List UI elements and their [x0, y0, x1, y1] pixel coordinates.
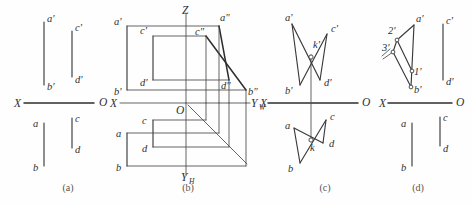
figure-canvas: X O a' c' b' d' a c b d (a)	[0, 0, 472, 205]
panel-d-label-a-prime: a'	[416, 13, 424, 24]
panel-b-label-O: O	[176, 104, 185, 116]
panel-a-caption: (a)	[62, 182, 73, 194]
panel-d-label-c: c	[443, 112, 448, 123]
panel-d-label-d-prime: d'	[446, 76, 454, 87]
panel-b: X Z O Y W Y H a' c' b' d' a" c" d" b" a …	[109, 4, 266, 194]
panel-c-label-a-prime: a'	[285, 12, 293, 23]
panel-a-label-c-prime: c'	[75, 22, 83, 33]
panel-d: X O a' c' 2' 3' 1' d' b' a c b d (d)	[378, 13, 465, 194]
panel-d-aux-2-to-1	[397, 40, 412, 71]
panel-a-label-a-prime: a'	[47, 13, 55, 24]
panel-b-label-a-prime: a'	[114, 16, 122, 27]
panel-a: X O a' c' b' d' a c b d (a)	[13, 13, 108, 194]
panel-b-label-b: b	[116, 162, 121, 173]
panel-d-aux-3-to-b	[393, 52, 411, 87]
panel-d-label-3-prime: 3'	[381, 42, 390, 53]
panel-c-label-X: X	[259, 97, 268, 109]
panel-c-label-k: k	[310, 142, 315, 153]
panel-a-label-a: a	[33, 118, 38, 129]
panel-d-label-b: b	[401, 162, 406, 173]
panel-c-label-d-prime: d'	[324, 77, 332, 88]
panel-a-label-O: O	[99, 96, 108, 108]
panel-d-label-O: O	[456, 96, 465, 108]
panel-b-label-Z: Z	[182, 4, 189, 16]
panel-b-label-Yw: Y	[251, 97, 259, 109]
panel-d-point-2-prime	[395, 38, 399, 42]
panel-b-label-c-prime: c'	[140, 25, 148, 36]
panel-d-label-a: a	[401, 118, 406, 129]
panel-b-45-degree-line	[188, 105, 247, 164]
panel-d-label-X: X	[378, 97, 387, 109]
panel-c-segment-ab-top	[294, 128, 300, 163]
panel-d-label-b-prime: b'	[414, 84, 422, 95]
panel-d-caption: (d)	[412, 182, 424, 194]
panel-b-caption: (b)	[182, 182, 194, 194]
panel-d-label-d: d	[443, 143, 449, 154]
panel-b-label-X: X	[109, 97, 118, 109]
panel-d-label-2-prime: 2'	[388, 25, 396, 36]
panel-b-label-b-double-prime: b"	[248, 86, 258, 97]
panel-b-label-d: d	[142, 143, 148, 154]
panel-c-label-a: a	[285, 120, 290, 131]
panel-a-label-X: X	[13, 97, 22, 109]
panel-c-label-k-prime: k'	[313, 39, 321, 50]
panel-c-caption: (c)	[319, 182, 330, 194]
panel-a-label-d-prime: d'	[75, 74, 83, 85]
panel-c: X O a' c' k' b' d' a c k b d (c)	[259, 12, 371, 194]
panel-a-label-c: c	[75, 113, 80, 124]
panel-b-label-a-double-prime: a"	[220, 12, 230, 23]
panel-c-segment-ad-top	[294, 128, 323, 143]
panel-c-label-O: O	[362, 96, 371, 108]
panel-b-segment-ab-side	[219, 26, 229, 80]
panel-d-point-b-prime	[409, 85, 413, 89]
panel-c-label-b-prime: b'	[285, 85, 293, 96]
panel-c-label-c: c	[330, 111, 335, 122]
panel-d-label-1-prime: 1'	[414, 66, 422, 77]
panel-b-label-c: c	[142, 115, 147, 126]
panel-b-label-d-double-prime: d"	[221, 80, 231, 91]
panel-d-point-3-prime	[391, 50, 395, 54]
panel-b-label-a: a	[116, 128, 121, 139]
panel-c-point-k-prime	[309, 55, 313, 59]
panel-d-aux-a-to-2	[397, 25, 414, 40]
panel-b-label-c-double-prime: c"	[195, 26, 205, 37]
panel-c-label-b: b	[288, 163, 293, 174]
panel-d-segment-ab-front	[411, 25, 414, 87]
panel-b-label-b-prime: b'	[114, 86, 122, 97]
panel-d-label-c-prime: c'	[446, 15, 454, 26]
panel-a-label-b-prime: b'	[47, 81, 55, 92]
panel-a-label-d: d	[75, 144, 81, 155]
panel-a-label-b: b	[33, 162, 38, 173]
panel-b-label-d-prime: d'	[140, 77, 148, 88]
panel-c-label-d: d	[329, 138, 335, 149]
panel-c-label-c-prime: c'	[331, 23, 339, 34]
